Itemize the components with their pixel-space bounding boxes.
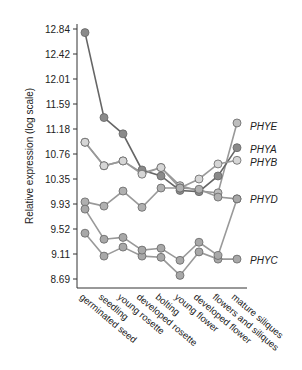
data-point <box>157 253 165 261</box>
label-phya: PHYA <box>250 144 277 155</box>
y-tick-label: 12.84 <box>45 24 70 35</box>
y-tick-label: 9.93 <box>51 199 71 210</box>
data-point <box>214 172 222 180</box>
data-point <box>214 160 222 168</box>
data-point <box>119 243 127 251</box>
series-phyd <box>81 184 241 211</box>
data-point <box>176 184 184 192</box>
data-point <box>119 187 127 195</box>
data-point <box>138 246 146 254</box>
data-point <box>81 198 89 206</box>
data-point <box>119 157 127 165</box>
data-point <box>233 255 241 263</box>
data-point <box>214 193 222 201</box>
data-point <box>100 235 108 243</box>
data-point <box>176 271 184 279</box>
series-line <box>85 123 237 193</box>
data-point <box>176 256 184 264</box>
data-point <box>100 114 108 122</box>
data-point <box>157 244 165 252</box>
data-point <box>195 238 203 246</box>
series-labels: PHYE PHYA PHYB PHYD PHYC <box>250 121 279 266</box>
data-point <box>157 164 165 172</box>
data-point <box>81 205 89 213</box>
y-tick-label: 9.11 <box>51 249 70 260</box>
data-point <box>81 29 89 37</box>
y-tick-label: 9.52 <box>51 224 71 235</box>
data-point <box>100 252 108 260</box>
data-point <box>233 119 241 127</box>
series-lines <box>81 29 241 280</box>
data-point <box>138 170 146 178</box>
line-chart: 12.8412.4212.0111.5911.1810.7610.359.939… <box>0 0 302 370</box>
data-point <box>214 252 222 260</box>
label-phyd: PHYD <box>250 194 278 205</box>
data-point <box>119 233 127 241</box>
label-phye: PHYE <box>250 121 278 132</box>
label-phyb: PHYB <box>250 157 278 168</box>
y-tick-label: 12.42 <box>45 49 70 60</box>
data-point <box>233 156 241 164</box>
data-point <box>195 185 203 193</box>
data-point <box>119 130 127 138</box>
y-tick-label: 11.59 <box>46 99 71 110</box>
data-point <box>157 184 165 192</box>
data-point <box>100 202 108 210</box>
data-point <box>195 175 203 183</box>
label-phyc: PHYC <box>250 255 279 266</box>
data-point <box>195 248 203 256</box>
y-tick-label: 10.76 <box>45 149 70 160</box>
data-point <box>81 138 89 146</box>
y-tick-label: 11.18 <box>46 124 71 135</box>
y-tick-label: 12.01 <box>45 74 70 85</box>
y-tick-label: 8.69 <box>51 274 71 285</box>
y-ticks: 12.8412.4212.0111.5911.1810.7610.359.939… <box>45 24 77 285</box>
data-point <box>81 229 89 237</box>
data-point <box>233 195 241 203</box>
data-point <box>233 144 241 152</box>
y-axis-title: Relative expression (log scale) <box>24 88 35 224</box>
y-tick-label: 10.35 <box>45 174 70 185</box>
x-tick-labels: germinated seedseedlingyoung rosettedeve… <box>78 291 286 353</box>
data-point <box>100 162 108 170</box>
data-point <box>138 203 146 211</box>
data-point <box>157 172 165 180</box>
